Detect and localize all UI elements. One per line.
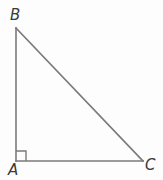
- right-angle-marker-icon: [16, 151, 26, 161]
- vertex-label-b: B: [10, 8, 20, 23]
- right-triangle-diagram: [0, 0, 163, 180]
- vertex-label-c: C: [145, 158, 155, 173]
- side-bc-hypotenuse-line: [16, 28, 143, 161]
- geometry-figure: B A C: [0, 0, 163, 180]
- vertex-label-a: A: [8, 163, 18, 178]
